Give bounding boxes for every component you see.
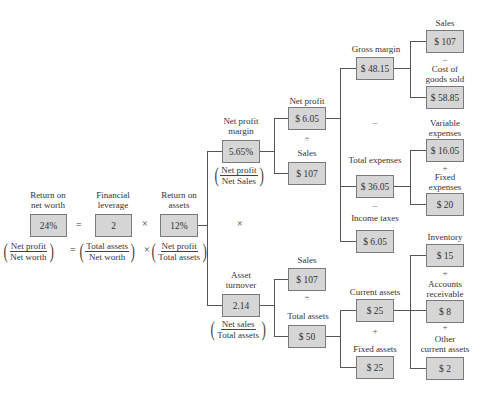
connector-line [326, 118, 340, 119]
connector-line [410, 368, 426, 369]
connector-line [410, 150, 411, 205]
connector-line [260, 305, 274, 306]
connector-line [207, 151, 208, 306]
other-current-assets-box: $ 2 [426, 357, 464, 380]
paren-right: ) [49, 240, 53, 262]
connector-line [274, 279, 288, 280]
connector-line [410, 97, 426, 98]
numerator: Net profit [161, 241, 198, 252]
connector-line [260, 151, 274, 152]
label-line: Fixed [416, 172, 474, 182]
divide-operator: ÷ [301, 293, 313, 303]
sales-box: $ 107 [288, 162, 326, 185]
income-taxes-label: Income taxes [344, 213, 406, 223]
connector-line [340, 367, 356, 368]
connector-line [410, 204, 426, 205]
net-profit-margin-label: Net profit margin [216, 116, 266, 136]
connector-line [410, 255, 426, 256]
minus-operator: – [369, 117, 381, 127]
connector-line [410, 41, 426, 42]
inventory-label: Inventory [420, 232, 470, 242]
label-line: Variable [416, 118, 474, 128]
paren-left: ( [79, 240, 83, 262]
connector-line [274, 279, 275, 337]
label-line: receivable [416, 289, 474, 299]
connector-line [410, 41, 411, 98]
label-line: Net profit [216, 116, 266, 126]
label-line: current assets [412, 344, 478, 354]
connector-line [274, 118, 288, 119]
divide-operator: ÷ [301, 134, 313, 144]
connector-line [394, 310, 410, 311]
financial-leverage-label: Financial leverage [90, 190, 136, 210]
connector-line [394, 186, 410, 187]
variable-expenses-box: $ 16.05 [426, 139, 464, 162]
current-assets-box: $ 25 [356, 299, 394, 322]
fixed-expenses-box: $ 20 [426, 193, 464, 216]
accounts-receivable-box: $ 8 [426, 300, 464, 323]
label-line: Asset [216, 270, 266, 280]
connector-line [207, 305, 222, 306]
accounts-receivable-label: Accounts receivable [416, 279, 474, 299]
denominator: Net Sales [221, 176, 257, 186]
label-line: Cost of [416, 64, 474, 74]
connector-line [340, 241, 356, 242]
gm-sales-box: $ 107 [426, 30, 464, 53]
variable-expenses-label: Variable expenses [416, 118, 474, 138]
other-current-assets-label: Other current assets [412, 334, 478, 354]
return-on-assets-label: Return on assets [156, 190, 202, 210]
denominator: Net worth [88, 252, 126, 262]
paren-left: ( [214, 164, 218, 186]
total-expenses-label: Total expenses [342, 155, 408, 165]
formula-net-profit-over-net-sales: ( Net profitNet Sales ) [213, 164, 265, 186]
formula-net-profit-over-total-assets: ( Net profitTotal assets ) [150, 240, 208, 262]
plus-operator: + [439, 268, 451, 278]
connector-line [410, 255, 411, 369]
label-line: Return on [26, 190, 70, 200]
sales-label: Sales [282, 148, 332, 158]
numerator: Net profit [10, 241, 47, 252]
label-line: Other [412, 334, 478, 344]
paren-right: ) [259, 164, 263, 186]
label-line: expenses [416, 182, 474, 192]
label-line: net worth [26, 200, 70, 210]
connector-line [410, 150, 426, 151]
equals-operator: = [76, 219, 82, 230]
branch-multiply-operator: × [237, 218, 243, 229]
formula-total-assets-over-net-worth: ( Total assetsNet worth ) [78, 240, 136, 262]
connector-line [410, 310, 426, 311]
denominator: Net worth [9, 252, 47, 262]
multiply-operator: × [142, 218, 148, 229]
connector-line [274, 118, 275, 174]
gross-margin-box: $ 48.15 [356, 57, 394, 80]
minus-operator: – [439, 54, 451, 64]
label-line: goods sold [416, 74, 474, 84]
return-on-assets-box: 12% [160, 214, 198, 237]
label-line: Accounts [416, 279, 474, 289]
numerator: Net profit [220, 165, 257, 176]
net-profit-margin-box: 5.65% [222, 140, 260, 163]
plus-operator: + [439, 322, 451, 332]
denominator: Total assets [216, 330, 260, 340]
denominator: Total assets [157, 252, 201, 262]
paren-right: ) [261, 318, 265, 340]
label-line: margin [216, 126, 266, 136]
total-assets-box: $ 50 [288, 325, 326, 348]
paren-left: ( [210, 318, 214, 340]
inventory-box: $ 15 [426, 244, 464, 267]
formula-net-profit-over-net-worth: ( Net profitNet worth ) [2, 240, 55, 262]
minus-operator: – [369, 200, 381, 210]
numerator: Total assets [85, 241, 129, 252]
connector-line [340, 310, 356, 311]
numerator: Net sales [221, 319, 256, 330]
net-profit-box: $ 6.05 [288, 107, 326, 130]
dupont-diagram: Return on net worth 24% = Financial leve… [0, 0, 490, 403]
income-taxes-box: $ 6.05 [356, 230, 394, 253]
connector-line [340, 310, 341, 368]
connector-line [340, 68, 356, 69]
asset-turnover-box: 2.14 [222, 294, 260, 317]
total-assets-label: Total assets [280, 311, 336, 321]
current-assets-label: Current assets [342, 287, 408, 297]
return-on-net-worth-box: 24% [30, 214, 67, 237]
label-line: expenses [416, 128, 474, 138]
